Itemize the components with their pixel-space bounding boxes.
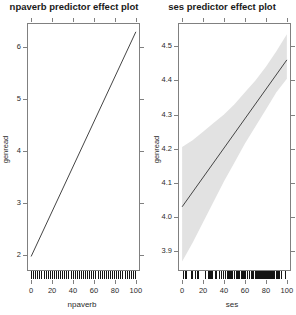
- y-tick-mark: [174, 46, 178, 47]
- y-tick-label: 4.0: [148, 212, 172, 221]
- y-tick-label: 2: [0, 250, 21, 259]
- plot-svg-left: [28, 24, 139, 270]
- y-tick-label: 4.5: [148, 41, 172, 50]
- rug-tick: [83, 271, 84, 279]
- rug-tick: [108, 271, 109, 279]
- y-tick-label: 6: [0, 42, 21, 51]
- rug-tick: [127, 271, 128, 279]
- y-tick-mark: [174, 251, 178, 252]
- x-tick-mark: [245, 280, 246, 284]
- rug-tick: [205, 271, 206, 279]
- y-tick-mark-right: [140, 47, 144, 48]
- rug-tick: [279, 271, 280, 279]
- x-tick-mark: [31, 280, 32, 284]
- y-tick-mark: [174, 217, 178, 218]
- y-tick-mark-right: [291, 46, 295, 47]
- rug-tick: [75, 271, 76, 279]
- y-tick-mark-right: [140, 99, 144, 100]
- rug-tick: [106, 271, 107, 279]
- rug-tick: [95, 271, 96, 279]
- rug-tick: [77, 271, 78, 279]
- y-tick-mark: [174, 183, 178, 184]
- rug-tick: [62, 271, 63, 279]
- x-tick-mark: [287, 280, 288, 284]
- rug-tick: [239, 271, 240, 279]
- y-tick-label: 3: [0, 198, 21, 207]
- rug-tick: [54, 271, 55, 279]
- rug-tick: [118, 271, 119, 279]
- rug-tick: [122, 271, 123, 279]
- rug-tick: [48, 271, 49, 279]
- fit-line-right: [182, 60, 287, 207]
- rug-tick: [285, 271, 286, 279]
- effect-plots-figure: npaverb predictor effect plot genread np…: [0, 0, 296, 315]
- panel-ses: ses predictor effect plot genread ses 3.…: [148, 0, 296, 315]
- x-tick-mark-top: [203, 18, 204, 22]
- rug-tick: [102, 271, 103, 279]
- y-tick-label: 4.2: [148, 144, 172, 153]
- rug-tick: [133, 271, 134, 279]
- y-tick-mark: [23, 47, 27, 48]
- rug-tick: [112, 271, 113, 279]
- y-tick-label: 4.4: [148, 75, 172, 84]
- y-tick-mark-right: [291, 217, 295, 218]
- rug-tick: [85, 271, 86, 279]
- y-tick-mark: [23, 255, 27, 256]
- rug-tick: [249, 271, 250, 279]
- y-tick-mark: [174, 115, 178, 116]
- rug-tick: [87, 271, 88, 279]
- rug-tick: [245, 271, 246, 279]
- x-tick-mark-top: [115, 18, 116, 22]
- rug-tick: [116, 271, 117, 279]
- rug-tick: [274, 271, 275, 279]
- x-tick-mark: [182, 280, 183, 284]
- rug-tick: [100, 271, 101, 279]
- fit-line-left: [31, 32, 136, 257]
- y-tick-label: 4: [0, 146, 21, 155]
- rug-tick: [98, 271, 99, 279]
- x-axis-label-left: npaverb: [24, 300, 140, 309]
- rug-tick: [234, 271, 235, 279]
- rug-tick: [44, 271, 45, 279]
- rug-tick: [125, 271, 126, 279]
- rug-tick: [223, 271, 224, 279]
- x-tick-mark-top: [31, 18, 32, 22]
- rug-tick: [186, 271, 187, 279]
- x-tick-mark-top: [245, 18, 246, 22]
- rug-tick: [91, 271, 92, 279]
- y-tick-mark: [23, 151, 27, 152]
- x-tick-mark-top: [182, 18, 183, 22]
- x-tick-mark: [73, 280, 74, 284]
- x-tick-mark-top: [224, 18, 225, 22]
- rug-tick: [37, 271, 38, 279]
- x-tick-mark-top: [73, 18, 74, 22]
- confidence-band-right: [182, 34, 287, 261]
- panel-title-npaverb: npaverb predictor effect plot: [0, 1, 148, 12]
- rug-tick: [71, 271, 72, 279]
- x-tick-mark-top: [94, 18, 95, 22]
- rug-tick: [131, 271, 132, 279]
- rug-tick: [46, 271, 47, 279]
- rug-tick: [135, 271, 136, 279]
- y-tick-mark-right: [291, 115, 295, 116]
- y-tick-mark: [23, 203, 27, 204]
- rug-tick: [247, 271, 248, 279]
- rug-tick: [253, 271, 254, 279]
- x-tick-mark-top: [287, 18, 288, 22]
- x-tick-label: 100: [122, 286, 150, 295]
- rug-tick: [221, 271, 222, 279]
- plot-area-npaverb: [27, 23, 140, 271]
- y-tick-mark-right: [291, 80, 295, 81]
- rug-tick: [212, 271, 213, 279]
- y-tick-label: 4.1: [148, 178, 172, 187]
- rug-tick: [104, 271, 105, 279]
- rug-tick: [35, 271, 36, 279]
- x-tick-mark: [266, 280, 267, 284]
- x-tick-mark: [115, 280, 116, 284]
- rug-tick: [52, 271, 53, 279]
- x-tick-mark: [203, 280, 204, 284]
- x-tick-mark-top: [136, 18, 137, 22]
- x-tick-mark: [136, 280, 137, 284]
- rug-tick: [60, 271, 61, 279]
- rug-tick: [120, 271, 121, 279]
